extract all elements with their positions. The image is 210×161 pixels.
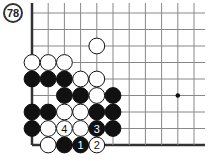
move-number: 2 (94, 139, 100, 151)
black-stone (24, 71, 40, 87)
black-stone-icon (57, 88, 73, 104)
go-board: 4312 (0, 0, 210, 161)
white-stone-icon (40, 121, 56, 137)
black-stone (105, 121, 121, 137)
move-number: 3 (94, 123, 100, 135)
white-stone (89, 71, 105, 87)
white-stone (40, 137, 56, 153)
black-stone (24, 121, 40, 137)
white-stone (57, 55, 73, 71)
white-stone-icon (57, 104, 73, 120)
white-stone-icon (73, 104, 89, 120)
black-stone (57, 71, 73, 87)
black-stone (40, 71, 56, 87)
white-stone-icon (57, 55, 73, 71)
black-stone-icon (24, 121, 40, 137)
black-stone-icon (105, 88, 121, 104)
star-points (176, 93, 181, 98)
black-stone-icon (105, 121, 121, 137)
black-stone-icon (105, 104, 121, 120)
white-stone (57, 104, 73, 120)
white-stone-icon (24, 55, 40, 71)
black-stone: 3 (89, 121, 105, 137)
white-stone-icon (89, 38, 105, 54)
white-stone-icon (40, 137, 56, 153)
black-stone-icon (89, 104, 105, 120)
move-number: 1 (78, 139, 84, 151)
black-stone-icon (73, 88, 89, 104)
move-number: 4 (61, 123, 67, 135)
black-stone (24, 104, 40, 120)
black-stone (73, 88, 89, 104)
white-stone (24, 55, 40, 71)
star-point-icon (176, 93, 181, 98)
white-stone-icon (89, 88, 105, 104)
black-stone (89, 104, 105, 120)
black-stone-icon (40, 104, 56, 120)
white-stone (89, 88, 105, 104)
black-stone-icon (57, 137, 73, 153)
white-stone (73, 121, 89, 137)
white-stone (40, 121, 56, 137)
white-stone (89, 38, 105, 54)
white-stone (73, 104, 89, 120)
white-stone-icon (40, 55, 56, 71)
white-stone-icon (73, 71, 89, 87)
black-stone-icon (24, 104, 40, 120)
black-stone (57, 137, 73, 153)
black-stone-icon (57, 71, 73, 87)
white-stone-icon (73, 121, 89, 137)
white-stone: 2 (89, 137, 105, 153)
white-stone: 4 (57, 121, 73, 137)
black-stone-icon (24, 71, 40, 87)
white-stone-icon (89, 71, 105, 87)
white-stone (40, 55, 56, 71)
black-stone-icon (40, 71, 56, 87)
black-stone (57, 88, 73, 104)
white-stone (73, 71, 89, 87)
black-stone (40, 104, 56, 120)
black-stone (105, 88, 121, 104)
black-stone: 1 (73, 137, 89, 153)
black-stone (105, 104, 121, 120)
